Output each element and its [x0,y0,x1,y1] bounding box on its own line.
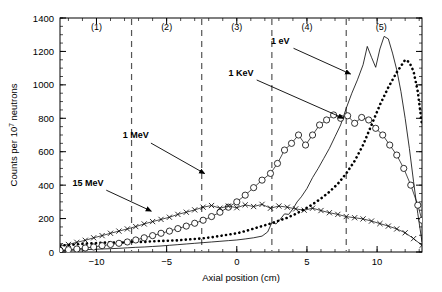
x-tick-label: 10 [372,256,383,267]
marker-open-circle [415,202,421,208]
marker-open-circle [234,199,240,205]
marker-open-circle [359,114,365,120]
marker-open-circle [133,237,139,243]
marker-open-circle [141,235,147,241]
annotation-label: 15 MeV [73,178,104,188]
region-label: (1) [91,22,102,32]
marker-open-circle [274,160,280,166]
region-label: (3) [231,22,242,32]
marker-open-circle [208,213,214,219]
marker-open-circle [116,240,122,246]
marker-open-circle [225,204,231,210]
x-tick-label: −10 [88,256,104,267]
region-label: (4) [301,22,312,32]
marker-open-circle [323,117,329,123]
marker-open-circle [401,165,407,171]
marker-open-circle [309,132,315,138]
marker-open-circle [91,244,97,250]
marker-open-circle [82,245,88,251]
y-axis-title: Counts per 107 neutrons [8,83,20,186]
marker-open-circle [175,226,181,232]
x-axis-title: Axial position (cm) [202,272,280,283]
x-tick-label: 0 [234,256,239,267]
marker-open-circle [419,217,425,223]
marker-open-circle [242,192,248,198]
plot-frame [60,18,422,252]
marker-open-circle [158,230,164,236]
axial-position-counts-chart: 0200400600800100012001400−10−50510Axial … [0,0,442,292]
marker-open-circle [259,177,265,183]
marker-open-circle [288,140,294,146]
annotation-label: 1 MeV [123,130,149,140]
marker-open-circle [302,142,308,148]
y-tick-label: 1200 [33,46,54,57]
y-tick-label: 400 [38,180,54,191]
marker-open-circle [124,239,130,245]
marker-open-circle [74,246,80,252]
marker-open-circle [183,223,189,229]
marker-open-circle [150,233,156,239]
annotation-label: 1 eV [271,36,290,46]
marker-open-circle [366,117,372,123]
chart-figure: 0200400600800100012001400−10−50510Axial … [0,0,442,292]
marker-open-circle [380,132,386,138]
marker-open-circle [316,122,322,128]
y-tick-label: 800 [38,113,54,124]
annotation-label: 1 KeV [228,68,253,78]
y-tick-label: 200 [38,213,54,224]
marker-open-circle [352,120,358,126]
marker-open-circle [394,152,400,158]
marker-open-circle [192,220,198,226]
x-tick-label: 5 [304,256,309,267]
marker-open-circle [267,170,273,176]
marker-open-circle [166,228,172,234]
marker-open-circle [295,132,301,138]
marker-open-circle [345,113,351,119]
y-tick-label: 1400 [33,13,54,24]
region-label: (2) [161,22,172,32]
marker-open-circle [65,247,71,253]
x-tick-label: −5 [161,256,172,267]
y-tick-label: 1000 [33,79,54,90]
marker-open-circle [373,125,379,131]
marker-open-circle [200,217,206,223]
marker-open-circle [281,147,287,153]
marker-open-circle [408,182,414,188]
marker-open-circle [251,185,257,191]
marker-open-circle [387,142,393,148]
marker-open-circle [107,241,113,247]
y-tick-label: 600 [38,146,54,157]
region-label: (5) [376,22,387,32]
y-tick-label: 0 [49,247,54,258]
marker-open-circle [99,243,105,249]
